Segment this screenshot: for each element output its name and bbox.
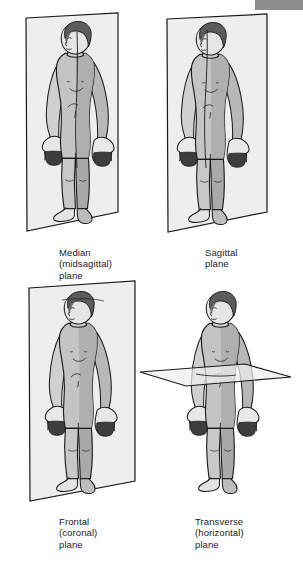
caption-frontal-plane: Frontal (coronal) plane — [59, 516, 97, 550]
panel-median — [26, 13, 118, 231]
panel-frontal — [29, 281, 135, 501]
panel-sagittal — [167, 14, 267, 232]
corner-grey-bar — [255, 0, 303, 10]
caption-median-plane: Median (midsagittal) plane — [59, 247, 112, 281]
diagram-canvas — [0, 0, 303, 562]
caption-transverse-plane: Transverse (horizontal) plane — [195, 516, 244, 550]
body-planes-diagram — [0, 0, 303, 562]
caption-sagittal-plane: Sagittal plane — [205, 247, 238, 270]
